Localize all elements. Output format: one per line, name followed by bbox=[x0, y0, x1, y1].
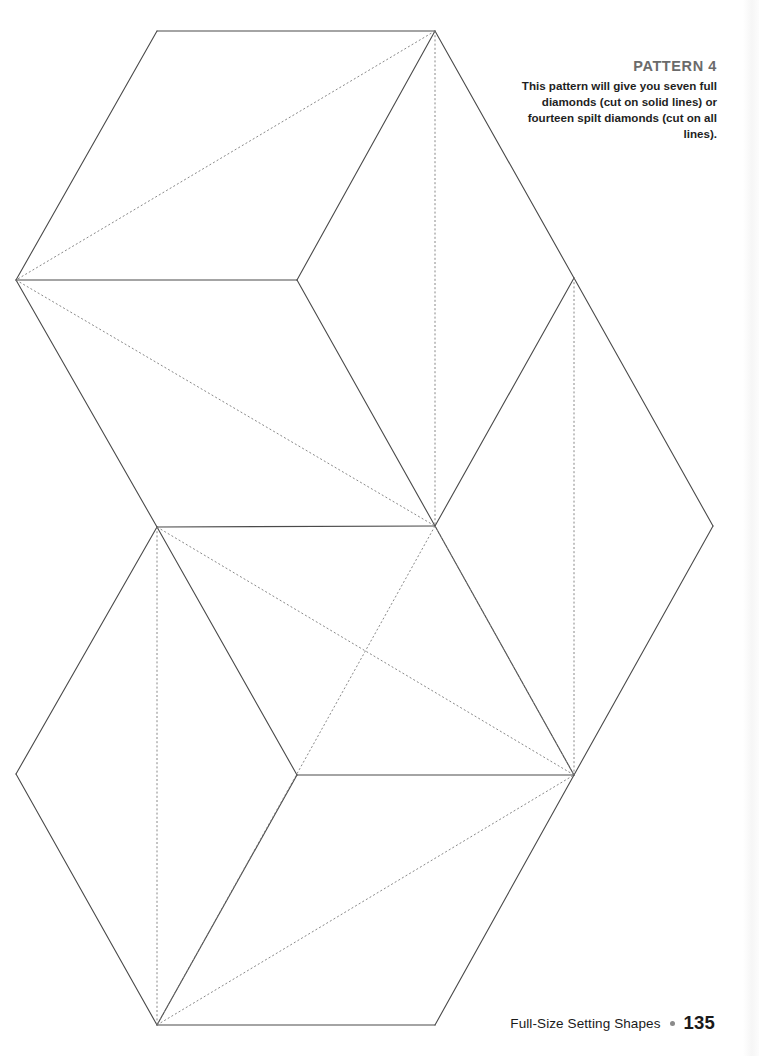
edge-far-right-upper bbox=[574, 278, 713, 526]
dash-bottom-vertex-to-right-lower bbox=[157, 775, 574, 1025]
dashed-split-lines bbox=[16, 31, 574, 1025]
pattern-diagram bbox=[0, 0, 759, 1056]
pattern-page: PATTERN 4 This pattern will give you sev… bbox=[0, 0, 759, 1056]
edge-far-right-lower bbox=[574, 526, 713, 775]
edge-right-upper-down bbox=[435, 278, 574, 526]
edge-center-upper-down bbox=[297, 280, 435, 526]
edge-top-inner-left bbox=[297, 31, 435, 280]
edge-bottom-inner-left bbox=[157, 775, 297, 1025]
edge-bottom-left-down bbox=[16, 774, 157, 1025]
footer-section-label: Full-Size Setting Shapes bbox=[510, 1016, 660, 1031]
edge-left-mid-down bbox=[157, 527, 297, 775]
edge-top-left bbox=[16, 31, 157, 280]
edge-left-upper-down bbox=[16, 280, 157, 527]
edge-left-mid-to-bottom-left bbox=[16, 527, 157, 774]
pattern-caption: PATTERN 4 This pattern will give you sev… bbox=[511, 58, 717, 142]
edge-bottom-right-up bbox=[435, 775, 574, 1025]
dash-top-diagonal bbox=[16, 31, 435, 280]
page-footer: Full-Size Setting Shapes 135 bbox=[510, 1012, 715, 1034]
pattern-description: This pattern will give you seven full di… bbox=[511, 78, 717, 142]
page-number: 135 bbox=[684, 1012, 715, 1034]
solid-cut-lines bbox=[16, 31, 713, 1025]
dash-left-to-center bbox=[16, 280, 435, 526]
edge-mid-horizontal-center bbox=[157, 526, 435, 527]
pattern-title: PATTERN 4 bbox=[511, 58, 717, 75]
bullet-dot-icon bbox=[670, 1021, 675, 1026]
